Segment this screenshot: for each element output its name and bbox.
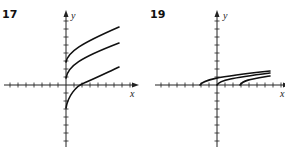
graph-19-plot bbox=[155, 10, 285, 147]
x-axis-arrow-icon bbox=[283, 83, 285, 88]
curve-2 bbox=[66, 43, 119, 78]
curve-1 bbox=[66, 27, 119, 62]
graphs-canvas bbox=[0, 0, 285, 152]
y-axis-arrow-icon bbox=[215, 10, 220, 17]
x-axis-arrow-icon bbox=[132, 83, 139, 88]
graph-17-plot bbox=[4, 10, 139, 147]
y-axis-arrow-icon bbox=[64, 10, 69, 17]
